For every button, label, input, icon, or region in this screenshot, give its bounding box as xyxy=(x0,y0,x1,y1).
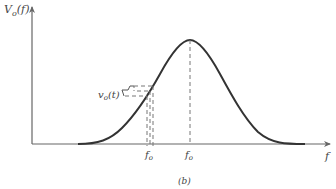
x-axis-label: f xyxy=(324,150,331,163)
y-axis-label: Vo(f) xyxy=(4,3,29,18)
frequency-response-diagram: Vo(f) f vo(t) fo fo (b) xyxy=(0,0,336,189)
tick-label-slope-fo: fo xyxy=(144,149,153,162)
tick-label-peak-fo: fo xyxy=(184,149,193,162)
figure-caption: (b) xyxy=(178,176,191,186)
signal-label: vo(t) xyxy=(98,89,120,102)
waveform-icon xyxy=(122,86,134,96)
